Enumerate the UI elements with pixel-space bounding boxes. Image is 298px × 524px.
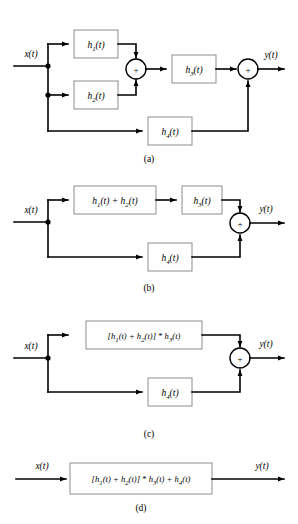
block-c-h4-label: h4(t)	[161, 388, 178, 400]
wire-b-h3-to-sum	[222, 200, 240, 212]
block-a-h4-label: h4(t)	[161, 127, 178, 139]
diagram-d: [h1(t) + h2(t)] * h3(t) + h4(t) x(t) y(t…	[16, 461, 284, 514]
caption-c: (c)	[144, 429, 155, 440]
label-b-input: x(t)	[23, 205, 37, 216]
wire-a-h4-to-sum2	[192, 81, 248, 131]
adder-a-1-plus-icon: +	[133, 65, 138, 75]
caption-b: (b)	[143, 283, 154, 294]
label-c-input: x(t)	[23, 341, 37, 352]
block-a-h1-label: h1(t)	[87, 40, 104, 52]
label-d-output: y(t)	[254, 461, 268, 472]
diagram-b: h1(t) + h2(t) h3(t) + h4(t) x(t) y(t) (b…	[14, 186, 284, 294]
adder-b-1-plus-icon: +	[237, 219, 242, 229]
wire-c-combined-to-sum	[202, 335, 240, 347]
block-b-h4-label: h4(t)	[161, 253, 178, 265]
wire-b-h4-to-sum	[192, 235, 240, 257]
diagram-a: h1(t) h2(t) + h3(t) + h4(t) x(t) y(t)	[14, 30, 284, 165]
label-d-input: x(t)	[34, 461, 48, 472]
label-c-output: y(t)	[258, 339, 272, 350]
label-a-output: y(t)	[263, 50, 277, 61]
wire-a-h2-to-sum1	[118, 80, 136, 95]
figure-root: h1(t) h2(t) + h3(t) + h4(t) x(t) y(t)	[0, 0, 298, 524]
adder-a-2-plus-icon: +	[245, 65, 250, 75]
caption-a: (a)	[144, 154, 155, 165]
junction-dot-b	[45, 219, 50, 224]
wire-a-h1-to-sum1	[118, 44, 136, 58]
block-diagram-figure: h1(t) h2(t) + h3(t) + h4(t) x(t) y(t)	[0, 0, 298, 524]
junction-dot-a-upper	[45, 63, 50, 68]
junction-dot-c	[45, 355, 50, 360]
junction-dot-a-lower	[45, 92, 50, 97]
block-a-h3-label: h3(t)	[185, 65, 202, 77]
label-a-input: x(t)	[23, 49, 37, 60]
label-b-output: y(t)	[258, 204, 272, 215]
caption-d: (d)	[135, 503, 146, 514]
block-b-h3-label: h3(t)	[193, 196, 210, 208]
block-a-h2-label: h2(t)	[87, 91, 104, 103]
diagram-c: [h1(t) + h2(t)] * h3(t) + h4(t) x(t) y(t…	[14, 321, 284, 440]
adder-c-1-plus-icon: +	[237, 354, 242, 364]
wire-c-h4-to-sum	[192, 370, 240, 392]
block-d-combined-label: [h1(t) + h2(t)] * h3(t) + h4(t)	[92, 474, 191, 486]
